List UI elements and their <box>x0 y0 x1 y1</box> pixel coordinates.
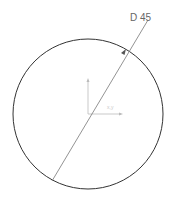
axis-label: x,y <box>107 104 113 110</box>
x-axis-arrow-icon <box>119 113 123 116</box>
dimension-line[interactable] <box>52 20 148 181</box>
y-axis-arrow-icon <box>87 78 90 82</box>
diameter-dimension-label[interactable]: D 45 <box>130 12 151 23</box>
sketch-canvas[interactable] <box>0 0 171 201</box>
dimension-arrow-icon <box>121 49 126 55</box>
